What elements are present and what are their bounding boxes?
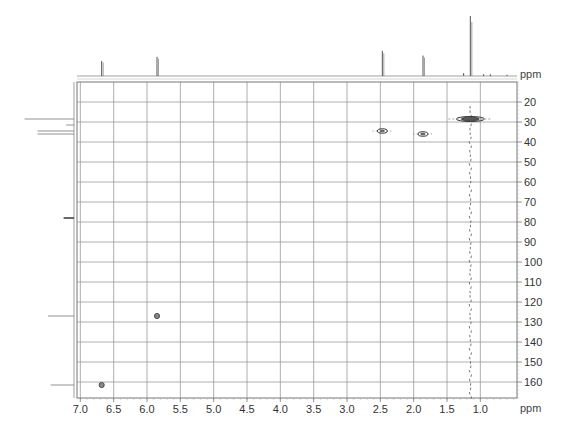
cross-peak [154,313,159,318]
x-tick-label: 1.0 [473,403,488,415]
t1-noise [469,185,470,188]
x-tick-label: 5.5 [173,403,188,415]
t1-noise [471,190,472,193]
t1-noise [469,370,470,373]
cross-peak [99,382,104,387]
y-tick-label: 90 [524,236,536,248]
plot-border [77,82,517,398]
y-tick-label: 50 [524,156,536,168]
t1-noise [471,256,472,259]
y-tick-label: 140 [524,336,542,348]
y-tick-label: 110 [524,276,542,288]
y-tick-label: 100 [524,256,542,268]
cross-peaks [99,106,492,399]
y-tick-label: 80 [524,216,536,228]
x-tick-label: 1.5 [439,403,454,415]
y-tick-label: 40 [524,136,536,148]
t1-noise [471,308,472,311]
top-projection-unit-label: ppm [520,68,541,80]
y-tick-label: 20 [524,96,536,108]
t1-noise [471,396,472,399]
t1-noise [471,374,472,377]
t1-noise [469,260,470,263]
left-projection-13c-spectrum [25,82,74,398]
y-tick-label: 150 [524,356,542,368]
t1-noise [469,348,470,351]
x-tick-label: 4.5 [239,403,254,415]
t1-noise [471,278,472,281]
nmr-2d-chart: 7.06.56.05.55.04.54.03.53.02.52.01.51.0 … [0,0,561,436]
y-axis-ticks: 2030405060708090100110120130140150160 [517,96,542,388]
y-tick-label: 120 [524,296,542,308]
t1-noise [469,216,470,219]
t1-noise [469,163,470,166]
y-tick-label: 30 [524,116,536,128]
x-tick-label: 3.0 [339,403,354,415]
x-tick-label: 4.0 [273,403,288,415]
y-tick-label: 60 [524,176,536,188]
x-tick-label: 2.0 [406,403,421,415]
t1-noise [471,168,472,171]
t1-noise [469,304,470,307]
t1-noise [469,238,470,241]
plot-frame [77,82,519,400]
x-tick-label: 2.5 [373,403,388,415]
x-tick-label: 3.5 [306,403,321,415]
x-tick-label: 6.0 [139,403,154,415]
t1-noise [471,146,472,149]
grid [77,82,517,398]
x-axis-ticks: 7.06.56.05.55.04.54.03.53.02.52.01.51.0 [73,398,488,415]
y-tick-label: 160 [524,376,542,388]
x-axis-unit-label: ppm [520,402,541,414]
t1-noise [471,352,472,355]
y-tick-label: 130 [524,316,542,328]
y-tick-label: 70 [524,196,536,208]
t1-noise [471,330,472,333]
t1-noise [469,326,470,329]
t1-noise [471,212,472,215]
t1-noise [469,141,470,144]
x-tick-label: 5.0 [206,403,221,415]
t1-noise [471,124,472,127]
x-tick-label: 6.5 [106,403,121,415]
t1-noise [471,234,472,237]
top-projection-1h-spectrum [77,16,517,79]
x-tick-label: 7.0 [73,403,88,415]
